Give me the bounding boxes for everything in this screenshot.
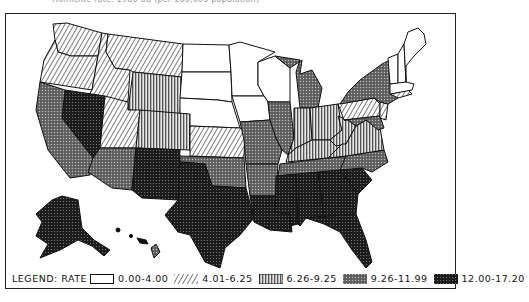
- state-me: [404, 28, 426, 82]
- state-az: [88, 148, 136, 190]
- state-nj: [380, 102, 388, 120]
- state-wa: [53, 23, 102, 56]
- state-vt: [388, 54, 398, 84]
- legend-item-1: 4.01-6.25: [174, 273, 252, 284]
- state-fl: [306, 214, 372, 268]
- legend: LEGEND: RATE 0.00-4.00 4.01-6.25 6.26-9.…: [12, 273, 529, 284]
- legend-label: 4.01-6.25: [202, 273, 252, 284]
- legend-item-4: 12.00-17.20: [434, 273, 525, 284]
- state-hi-2: [129, 234, 132, 237]
- legend-item-3: 9.26-11.99: [343, 273, 428, 284]
- legend-label: 6.26-9.25: [287, 273, 337, 284]
- legend-item-0: 0.00-4.00: [90, 273, 168, 284]
- state-wy: [128, 72, 182, 114]
- legend-swatch-blank: [90, 274, 114, 284]
- legend-title: LEGEND: RATE: [12, 273, 87, 284]
- state-sd: [180, 72, 232, 102]
- state-ak: [36, 196, 110, 258]
- legend-label: 9.26-11.99: [371, 273, 428, 284]
- state-ar: [246, 164, 278, 196]
- legend-label: 0.00-4.00: [118, 273, 168, 284]
- state-ks: [190, 126, 245, 158]
- state-hi-3: [137, 238, 148, 244]
- legend-item-2: 6.26-9.25: [259, 273, 337, 284]
- state-nd: [182, 44, 231, 72]
- state-co: [136, 110, 190, 150]
- state-nm: [132, 148, 180, 200]
- state-hi-4: [151, 244, 160, 258]
- state-hi-1: [116, 228, 120, 232]
- legend-swatch-dots: [343, 274, 367, 284]
- legend-swatch-dark: [434, 274, 458, 284]
- state-ia: [232, 96, 270, 122]
- legend-swatch-diagonal: [174, 274, 198, 284]
- legend-swatch-vertical: [259, 274, 283, 284]
- legend-label: 12.00-17.20: [462, 273, 525, 284]
